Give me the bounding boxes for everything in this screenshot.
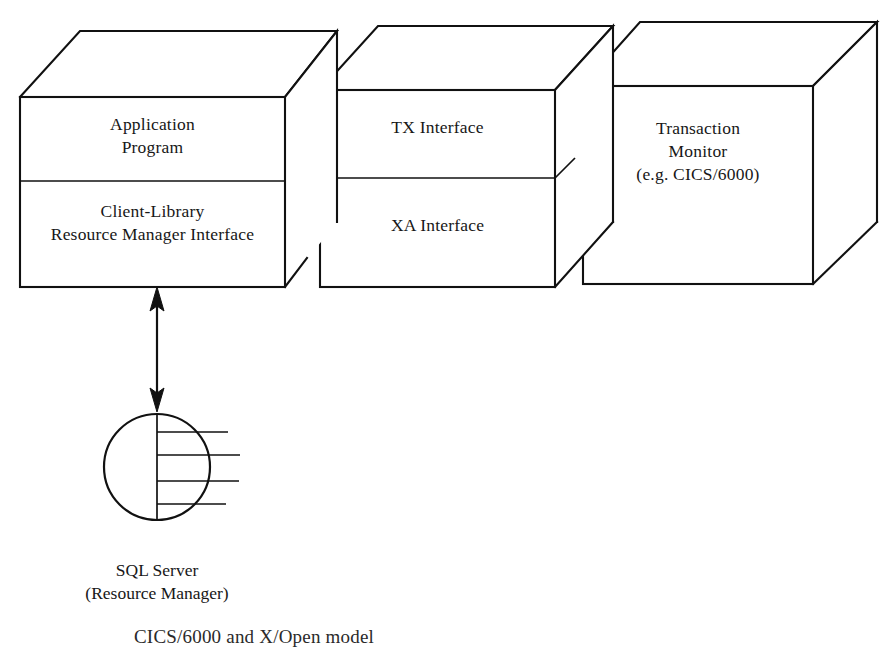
transaction-monitor-block [583,22,877,284]
sql-server-caption-line-2: (Resource Manager) [17,582,297,605]
client-application-block [20,31,337,287]
sql-server-caption: SQL Server (Resource Manager) [17,559,297,606]
sql-server-disc [104,414,240,520]
figure-caption: CICS/6000 and X/Open model [134,626,374,648]
client-to-sqlserver-arrow [150,287,164,412]
sql-server-caption-line-1: SQL Server [17,559,297,582]
xopen-interface-block [320,26,613,287]
